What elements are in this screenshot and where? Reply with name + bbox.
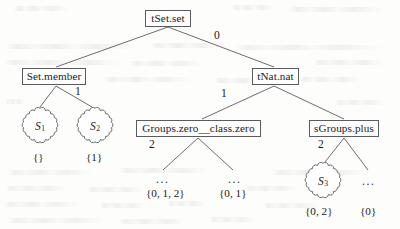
- node-groups-zero-class-zero[interactable]: Groups.zero__class.zero: [136, 120, 261, 137]
- edge-tnat-groups: [202, 86, 274, 119]
- node-set-member[interactable]: Set.member: [22, 68, 86, 85]
- node-sgroups-plus[interactable]: sGroups.plus: [309, 120, 379, 137]
- leaf-label-zero: {0}: [360, 206, 376, 217]
- cloud-label-s2: S2: [75, 106, 115, 146]
- cloud-node-s3[interactable]: S3: [303, 161, 343, 201]
- edge-groups-left: [163, 138, 198, 170]
- edge-label-setmember: 1: [75, 86, 81, 98]
- ellipsis-groups-left: ...: [156, 174, 169, 186]
- edge-groups-right: [198, 138, 233, 170]
- edge-tnat-sgroups: [274, 86, 344, 119]
- ellipsis-groups-right: ...: [228, 174, 241, 186]
- edge-label-root-tnat: 0: [214, 30, 220, 42]
- edge-root-setmember: [56, 27, 168, 67]
- node-tset-set[interactable]: tSet.set: [145, 10, 191, 27]
- node-tnat-nat[interactable]: tNat.nat: [252, 68, 299, 85]
- edge-sgroups-s3: [325, 138, 344, 162]
- cloud-label-s3: S3: [303, 161, 343, 201]
- edge-label-groups: 2: [149, 139, 155, 151]
- cloud-label-s1: S1: [20, 106, 60, 146]
- leaf-label-empty-set: {}: [33, 152, 44, 163]
- leaf-label-zero-two: {0, 2}: [305, 206, 333, 217]
- cloud-node-s1[interactable]: S1: [20, 106, 60, 146]
- edge-setmember-s2: [56, 86, 92, 107]
- edge-label-tnat-groups: 1: [221, 88, 227, 100]
- edge-setmember-s1: [40, 86, 56, 107]
- leaf-label-one: {1}: [86, 152, 102, 163]
- edge-sgroups-right: [344, 138, 368, 170]
- tree-diagram-canvas: tSet.set Set.member tNat.nat Groups.zero…: [0, 0, 400, 229]
- ellipsis-sgroups-right: ...: [362, 176, 375, 188]
- edge-label-sgroups: 2: [318, 139, 324, 151]
- leaf-label-zero-one: {0, 1}: [219, 188, 247, 199]
- leaf-label-zero-one-two: {0, 1, 2}: [146, 188, 185, 199]
- edge-root-tnat: [168, 27, 274, 67]
- cloud-node-s2[interactable]: S2: [75, 106, 115, 146]
